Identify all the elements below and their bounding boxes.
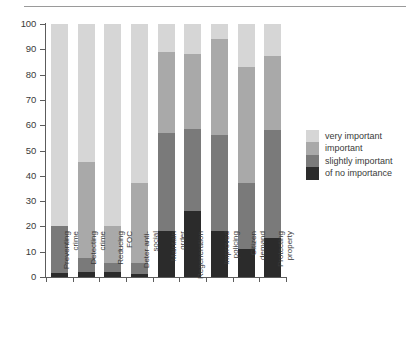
y-axis-tick-label: 30: [26, 196, 36, 206]
bar-segment[interactable]: [264, 56, 281, 131]
y-axis-tick-label: 50: [26, 146, 36, 156]
bar-segment[interactable]: [158, 24, 175, 52]
bar-segment[interactable]: [184, 129, 201, 211]
bar-segment[interactable]: [211, 135, 228, 231]
figure-container: 1009080706050403020100 Preventing crimeD…: [0, 0, 414, 345]
bar-segment[interactable]: [184, 54, 201, 129]
bar-segment[interactable]: [131, 24, 148, 183]
x-axis-category-label: Improved policing: [223, 231, 240, 285]
bar-segment[interactable]: [264, 24, 281, 56]
y-axis-tick: [40, 201, 45, 202]
x-axis-category-label: Preventing crime: [63, 231, 80, 285]
legend-label: important: [325, 143, 363, 153]
y-axis-tick: [40, 125, 45, 126]
x-axis-category-label: Reducing FOC: [117, 231, 134, 285]
y-axis-tick-label: 10: [26, 247, 36, 257]
top-divider-rule: [24, 6, 406, 7]
x-axis-category-label: Regeneration: [197, 231, 206, 285]
x-axis-tick: [46, 278, 47, 282]
bar-segment[interactable]: [78, 24, 95, 162]
legend-item[interactable]: of no importance: [306, 167, 410, 179]
y-axis-tick: [40, 151, 45, 152]
legend-swatch: [306, 155, 319, 167]
bar-segment[interactable]: [184, 24, 201, 54]
y-axis-tick: [40, 252, 45, 253]
y-axis-tick-label: 70: [26, 95, 36, 105]
x-axis-tick: [206, 278, 207, 282]
bar-segment[interactable]: [158, 52, 175, 133]
legend-swatch: [306, 130, 319, 142]
x-axis-category-label: Citizen demand: [250, 231, 267, 285]
y-axis-tick: [40, 100, 45, 101]
bar-segment[interactable]: [211, 24, 228, 39]
y-axis-tick-label: 20: [26, 221, 36, 231]
y-axis-tick: [40, 75, 45, 76]
x-axis-category-label: Deter anti- social: [143, 231, 160, 285]
y-axis-tick: [40, 226, 45, 227]
legend-label: very important: [325, 131, 382, 141]
y-axis-tick: [40, 176, 45, 177]
legend-item[interactable]: important: [306, 142, 410, 154]
x-axis-category-label: Detecting crime: [90, 231, 107, 285]
legend-label: slightly important: [325, 156, 393, 166]
legend-label: of no importance: [325, 168, 392, 178]
bar-segment[interactable]: [158, 133, 175, 232]
y-axis-tick: [40, 49, 45, 50]
legend-swatch: [306, 142, 319, 154]
x-axis-category-label: Maintain order: [170, 231, 187, 285]
bar-segment[interactable]: [264, 130, 281, 238]
x-axis-category-label: Protecting property: [277, 231, 294, 285]
bar-segment[interactable]: [238, 24, 255, 67]
legend-item[interactable]: slightly important: [306, 155, 410, 167]
legend-item[interactable]: very important: [306, 130, 410, 142]
chart-legend: very importantimportantslightly importan…: [306, 130, 410, 180]
y-axis-tick: [40, 24, 45, 25]
legend-swatch: [306, 167, 319, 179]
bar-segment[interactable]: [238, 67, 255, 183]
y-axis-tick-label: 90: [26, 44, 36, 54]
y-axis-tick-label: 60: [26, 120, 36, 130]
y-axis-tick-label: 0: [31, 272, 36, 282]
bar-segment[interactable]: [104, 24, 121, 226]
y-axis-tick-label: 40: [26, 171, 36, 181]
bar-segment[interactable]: [211, 39, 228, 135]
y-axis-tick: [40, 277, 45, 278]
y-axis-tick-label: 80: [26, 70, 36, 80]
bar-segment[interactable]: [51, 24, 68, 226]
y-axis-tick-label: 100: [21, 19, 36, 29]
